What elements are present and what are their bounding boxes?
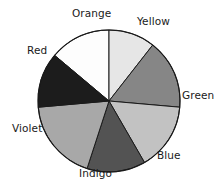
pie-label-violet: Violet bbox=[12, 123, 42, 134]
pie-label-green: Green bbox=[182, 90, 214, 101]
pie-label-indigo: Indigo bbox=[79, 168, 112, 179]
pie-label-orange: Orange bbox=[72, 8, 111, 19]
pie-chart-figure: Orange Yellow Green Blue Indigo Violet R… bbox=[0, 0, 221, 186]
pie-label-blue: Blue bbox=[157, 150, 181, 161]
pie-label-red: Red bbox=[27, 45, 47, 56]
pie-label-yellow: Yellow bbox=[137, 16, 170, 27]
